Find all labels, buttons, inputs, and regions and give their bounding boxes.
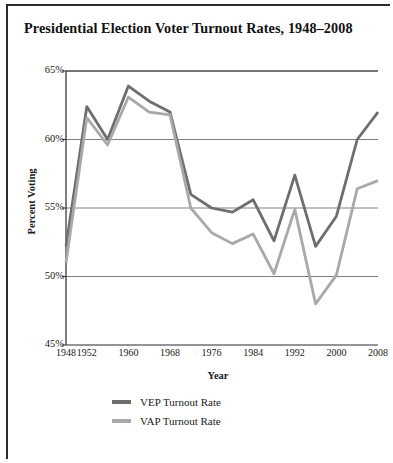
legend-swatch-icon <box>112 400 131 404</box>
gridlines <box>66 71 378 345</box>
series-line-vep <box>66 86 378 246</box>
data-series <box>66 86 378 304</box>
x-axis-ticks: 194819521960196819761984199220002008 <box>8 347 392 371</box>
legend-item-vep: VEP Turnout Rate <box>112 392 342 411</box>
x-tick-label-1992: 1992 <box>275 347 315 358</box>
x-tick-label-1960: 1960 <box>108 347 148 358</box>
x-tick-label-1976: 1976 <box>192 347 232 358</box>
x-tick-label-1984: 1984 <box>233 347 273 358</box>
legend-swatch-icon <box>112 419 131 423</box>
figure-panel: Presidential Election Voter Turnout Rate… <box>6 4 390 459</box>
plot-area: Percent Voting 45%50%55%60%65% 194819521… <box>8 48 392 403</box>
x-axis-label: Year <box>68 370 368 381</box>
x-tick-label-1968: 1968 <box>150 347 190 358</box>
chart-title: Presidential Election Voter Turnout Rate… <box>24 20 384 37</box>
legend-label: VEP Turnout Rate <box>140 396 221 408</box>
x-tick-label-2000: 2000 <box>316 347 356 358</box>
legend-item-vap: VAP Turnout Rate <box>112 411 342 430</box>
legend-label: VAP Turnout Rate <box>140 415 221 427</box>
chart-legend: VEP Turnout RateVAP Turnout Rate <box>112 392 342 430</box>
x-tick-label-2008: 2008 <box>358 347 393 358</box>
x-tick-label-1952: 1952 <box>67 347 107 358</box>
